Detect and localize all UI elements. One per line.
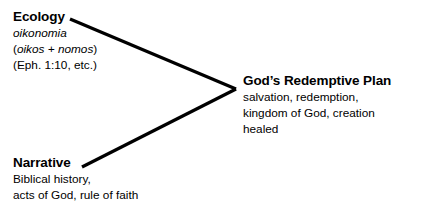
node-narrative-line-1: Biblical history,	[13, 171, 138, 187]
node-ecology-line-oikos-nomos: (oikos + nomos)	[13, 41, 97, 57]
node-ecology-heading: Ecology	[13, 9, 97, 25]
node-narrative-heading: Narrative	[13, 155, 138, 171]
node-narrative: Narrative Biblical history, acts of God,…	[13, 155, 138, 203]
node-narrative-line-2: acts of God, rule of faith	[13, 187, 138, 203]
node-ecology-line-2-italic: oikos + nomos	[17, 42, 93, 56]
node-redemptive-plan-line-3: healed	[243, 121, 391, 137]
diagram-canvas: Ecology oikonomia (oikos + nomos) (Eph. …	[0, 0, 423, 218]
node-redemptive-plan-heading: God’s Redemptive Plan	[243, 73, 391, 89]
node-redemptive-plan-line-2: kingdom of God, creation	[243, 105, 391, 121]
node-redemptive-plan-line-1: salvation, redemption,	[243, 89, 391, 105]
node-ecology-line-2-close-paren: )	[93, 42, 97, 56]
node-ecology-line-oikonomia: oikonomia	[13, 25, 97, 41]
node-ecology-line-reference: (Eph. 1:10, etc.)	[13, 57, 97, 73]
node-ecology: Ecology oikonomia (oikos + nomos) (Eph. …	[13, 9, 97, 73]
node-redemptive-plan: God’s Redemptive Plan salvation, redempt…	[243, 73, 391, 137]
